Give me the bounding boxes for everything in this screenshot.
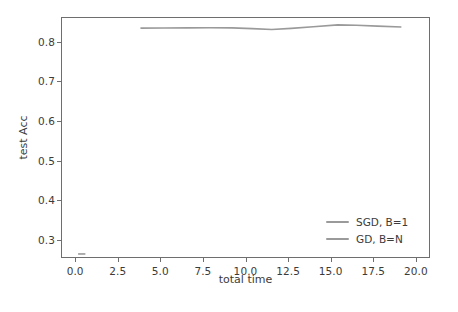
legend-item-sgd[interactable]: SGD, B=1 — [326, 216, 408, 228]
legend-label-sgd: SGD, B=1 — [356, 216, 408, 228]
x-tick-mark — [75, 258, 76, 262]
legend-label-gd: GD, B=N — [356, 233, 403, 245]
legend-item-gd[interactable]: GD, B=N — [326, 233, 408, 245]
y-tick-mark — [57, 42, 61, 43]
x-tick-mark — [416, 258, 417, 262]
y-tick-mark — [57, 121, 61, 122]
y-tick-label: 0.8 — [38, 36, 55, 48]
x-tick-mark — [203, 258, 204, 262]
y-tick-label: 0.5 — [38, 155, 55, 167]
y-tick-mark — [57, 81, 61, 82]
y-tick-label: 0.6 — [38, 115, 55, 127]
legend-swatch-gd — [326, 238, 349, 240]
series-line-1 — [140, 25, 401, 30]
x-tick-mark — [288, 258, 289, 262]
legend-swatch-sgd — [326, 221, 349, 223]
x-tick-mark — [246, 258, 247, 262]
legend: SGD, B=1 GD, B=N — [326, 216, 408, 245]
figure-canvas: 0.02.55.07.510.012.515.017.520.0 0.30.40… — [0, 0, 458, 312]
y-tick-label: 0.4 — [38, 194, 55, 206]
x-tick-mark — [331, 258, 332, 262]
y-tick-mark — [57, 240, 61, 241]
y-axis-label-text: test Acc — [17, 115, 30, 159]
y-tick-label: 0.3 — [38, 234, 55, 246]
y-axis-label: test Acc — [13, 0, 33, 275]
y-tick-mark — [57, 200, 61, 201]
x-tick-mark — [118, 258, 119, 262]
x-tick-mark — [373, 258, 374, 262]
x-axis-label: total time — [61, 273, 430, 286]
y-tick-mark — [57, 161, 61, 162]
y-tick-label: 0.7 — [38, 75, 55, 87]
x-tick-mark — [160, 258, 161, 262]
